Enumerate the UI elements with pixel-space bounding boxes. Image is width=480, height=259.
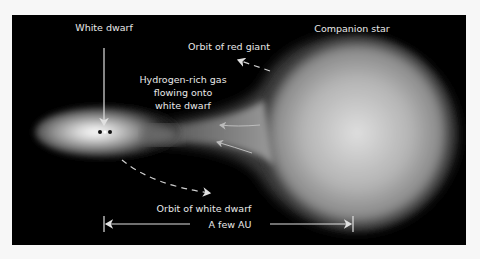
- white-dwarf: [98, 130, 112, 134]
- label-companion-star: Companion star: [314, 23, 390, 34]
- binary-system-diagram: White dwarf Companion star Orbit of red …: [12, 15, 466, 245]
- diagram-panel: White dwarf Companion star Orbit of red …: [12, 15, 466, 245]
- orbit-red-giant-arrow: [238, 60, 270, 71]
- label-orbit-white-dwarf: Orbit of white dwarf: [157, 203, 253, 214]
- companion-star: [152, 36, 457, 230]
- label-gas-flow-line2: flowing onto: [154, 87, 213, 98]
- label-gas-flow-line1: Hydrogen-rich gas: [139, 74, 226, 85]
- label-gas-flow-line3: white dwarf: [155, 100, 212, 111]
- label-white-dwarf: White dwarf: [75, 22, 133, 33]
- orbit-white-dwarf-arrow: [122, 160, 210, 193]
- label-orbit-red-giant: Orbit of red giant: [188, 41, 270, 52]
- label-scale: A few AU: [209, 219, 252, 230]
